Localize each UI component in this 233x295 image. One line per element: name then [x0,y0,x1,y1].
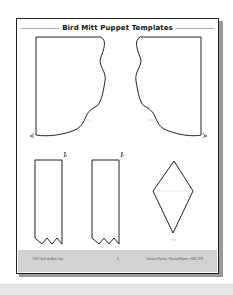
viewer-bottom-bar [0,284,233,295]
footer-page-number: 8 [117,258,118,261]
footer-series: Literature Pockets • Nursery Rhymes • EM… [146,258,203,261]
scissors-icon [203,133,207,138]
footer-copyright: ©2007 by Evan-Moor Corp. [32,258,64,261]
scissors-icon [121,152,124,157]
wing-left-outline [36,37,105,136]
wing-right-outline [136,37,201,136]
page-footer: ©2007 by Evan-Moor Corp. 8 Literature Po… [18,250,217,272]
beak-diamond-outline [153,161,193,233]
tail-strip-1-outline [35,160,62,244]
scissors-icon [64,152,67,157]
template-page: Bird Mitt Puppet Templates ©2 [16,18,219,274]
template-artwork [17,19,220,275]
scissors-icon [30,133,34,138]
tail-strip-2-outline [92,160,119,244]
